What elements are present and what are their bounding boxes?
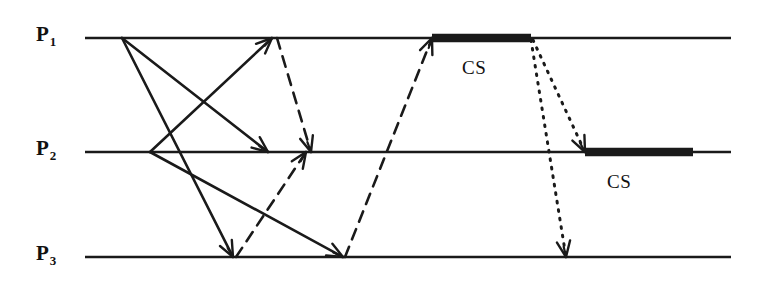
- message-arrow-solid-p2-to-p1: [150, 38, 272, 152]
- arrowhead-barb: [311, 135, 313, 152]
- critical-section-label-p2: CS: [607, 171, 631, 193]
- message-arrows: [122, 38, 585, 257]
- process-label-p1-subscript: 1: [49, 34, 57, 49]
- process-label-p3-name: P: [36, 241, 49, 265]
- process-label-p3: P3: [36, 241, 56, 269]
- process-label-p2-name: P: [36, 136, 49, 160]
- arrow-shaft: [150, 39, 271, 152]
- arrow-shaft: [277, 38, 311, 151]
- process-label-p1: P1: [36, 22, 56, 50]
- message-arrow-dashed-p3-to-p1: [345, 38, 432, 257]
- arrow-shaft: [533, 40, 585, 151]
- arrow-shaft: [122, 38, 233, 256]
- critical-section-label-p1: CS: [462, 57, 486, 79]
- message-arrow-solid-p1-to-p2: [122, 38, 268, 152]
- process-timelines: [85, 38, 731, 257]
- arrow-shaft: [122, 38, 267, 151]
- process-label-p1-name: P: [36, 22, 49, 46]
- message-arrow-dashed-p1-to-p2: [277, 38, 313, 152]
- arrowhead-barb: [566, 240, 570, 257]
- process-timeline-diagram: P1 P2 P3 CS CS: [0, 0, 776, 289]
- process-label-p2: P2: [36, 136, 56, 164]
- process-label-p3-subscript: 3: [49, 253, 57, 268]
- message-arrow-dotted-p1-to-p2: [533, 40, 585, 152]
- message-arrow-dotted-p1-to-p3: [531, 40, 570, 257]
- process-label-p2-subscript: 2: [49, 148, 57, 163]
- critical-section-bars: [432, 38, 693, 152]
- diagram-canvas: [0, 0, 776, 289]
- message-arrow-solid-p1-to-p3: [122, 38, 233, 257]
- arrow-shaft: [345, 39, 432, 257]
